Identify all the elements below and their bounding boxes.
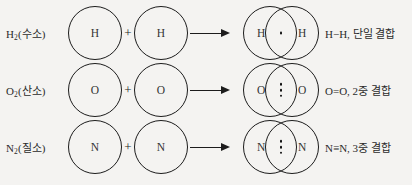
product-molecule: OO	[243, 63, 319, 117]
molecule-symbol-left: N	[257, 141, 265, 153]
plus-sign: +	[121, 139, 135, 155]
covalent-bond-diagram: H2(수소)HH+HHH−H, 단일 결합O2(산소)OO+OOO=O, 2중 …	[0, 0, 412, 185]
shared-electron-group	[273, 140, 289, 154]
bond-description-label: H−H, 단일 결합	[325, 25, 395, 41]
molecule-symbol-right: O	[298, 84, 306, 96]
atom-symbol: O	[135, 64, 187, 116]
reaction-arrow-icon	[190, 28, 230, 38]
atom-symbol: N	[135, 121, 187, 173]
arrow-head	[221, 86, 230, 94]
molecule-symbol-right: N	[298, 141, 306, 153]
reactant-formula-label: O2(산소)	[6, 82, 46, 99]
reaction-row: N2(질소)NN+NNN≡N, 3중 결합	[0, 119, 412, 175]
electron-dot-icon	[280, 89, 283, 92]
reactant-atom-left: N	[68, 120, 122, 174]
reactant-element-symbol: O	[6, 85, 14, 97]
arrow-shaft	[190, 90, 224, 91]
reactant-korean-name: (수소)	[18, 28, 46, 40]
reactant-korean-name: (질소)	[18, 142, 46, 154]
reactant-element-symbol: N	[6, 142, 14, 154]
atom-symbol: H	[69, 7, 121, 59]
product-molecule: NN	[243, 120, 319, 174]
reaction-row: O2(산소)OO+OOO=O, 2중 결합	[0, 62, 412, 118]
arrow-shaft	[190, 33, 224, 34]
shared-electron-group	[273, 83, 289, 97]
arrow-head	[221, 29, 230, 37]
reaction-row: H2(수소)HH+HHH−H, 단일 결합	[0, 5, 412, 61]
reactant-korean-name: (산소)	[18, 85, 46, 97]
plus-sign: +	[121, 25, 135, 41]
atom-symbol: O	[69, 64, 121, 116]
reactant-formula-label: H2(수소)	[6, 25, 46, 42]
shared-electron-group	[273, 32, 289, 35]
electron-dot-icon	[280, 146, 283, 149]
reaction-arrow-icon	[190, 85, 230, 95]
electron-dot-icon	[280, 140, 283, 143]
arrow-head	[221, 143, 230, 151]
electron-dot-icon	[280, 32, 283, 35]
reactant-atom-right: O	[134, 63, 188, 117]
reactant-atom-left: H	[68, 6, 122, 60]
reactant-atom-left: O	[68, 63, 122, 117]
product-molecule: HH	[243, 6, 319, 60]
bond-description-label: N≡N, 3중 결합	[325, 139, 391, 155]
bond-description-label: O=O, 2중 결합	[325, 82, 391, 98]
atom-symbol: N	[69, 121, 121, 173]
electron-dot-icon	[280, 83, 283, 86]
reactant-element-symbol: H	[6, 28, 14, 40]
arrow-shaft	[190, 147, 224, 148]
electron-dot-icon	[280, 94, 283, 97]
reactant-atom-right: H	[134, 6, 188, 60]
atom-symbol: H	[135, 7, 187, 59]
reaction-arrow-icon	[190, 142, 230, 152]
molecule-symbol-left: H	[257, 27, 265, 39]
electron-dot-icon	[280, 151, 283, 154]
reactant-atom-right: N	[134, 120, 188, 174]
reactant-formula-label: N2(질소)	[6, 139, 46, 156]
molecule-symbol-right: H	[298, 27, 306, 39]
molecule-symbol-left: O	[257, 84, 265, 96]
plus-sign: +	[121, 82, 135, 98]
